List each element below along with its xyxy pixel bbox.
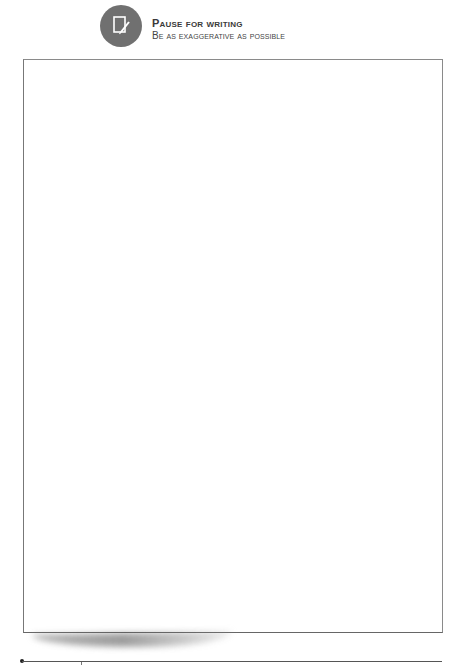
footer-rule	[22, 661, 442, 662]
section-title: Pause for writing	[152, 17, 243, 29]
page-shadow	[32, 631, 232, 648]
section-subtitle: Be as exaggerative as possible	[152, 30, 285, 41]
writing-area[interactable]	[23, 59, 443, 633]
pencil-paper-icon	[100, 5, 142, 47]
